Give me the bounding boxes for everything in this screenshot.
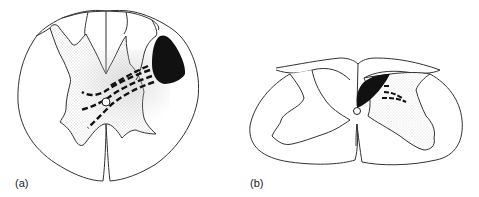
panel-label-a: (a)	[15, 177, 28, 189]
spinal-cord-section-b	[240, 0, 479, 197]
central-canal-b	[354, 108, 361, 115]
posterior-columns-a	[62, 11, 159, 30]
panel-label-b: (b)	[250, 177, 263, 189]
spinal-cord-section-a	[0, 0, 240, 197]
lesion-a	[152, 35, 185, 84]
grey-matter-left-b	[272, 70, 350, 145]
panel-a: (a)	[0, 0, 240, 197]
panel-b: (b)	[240, 0, 479, 197]
central-canal-a	[102, 98, 110, 106]
